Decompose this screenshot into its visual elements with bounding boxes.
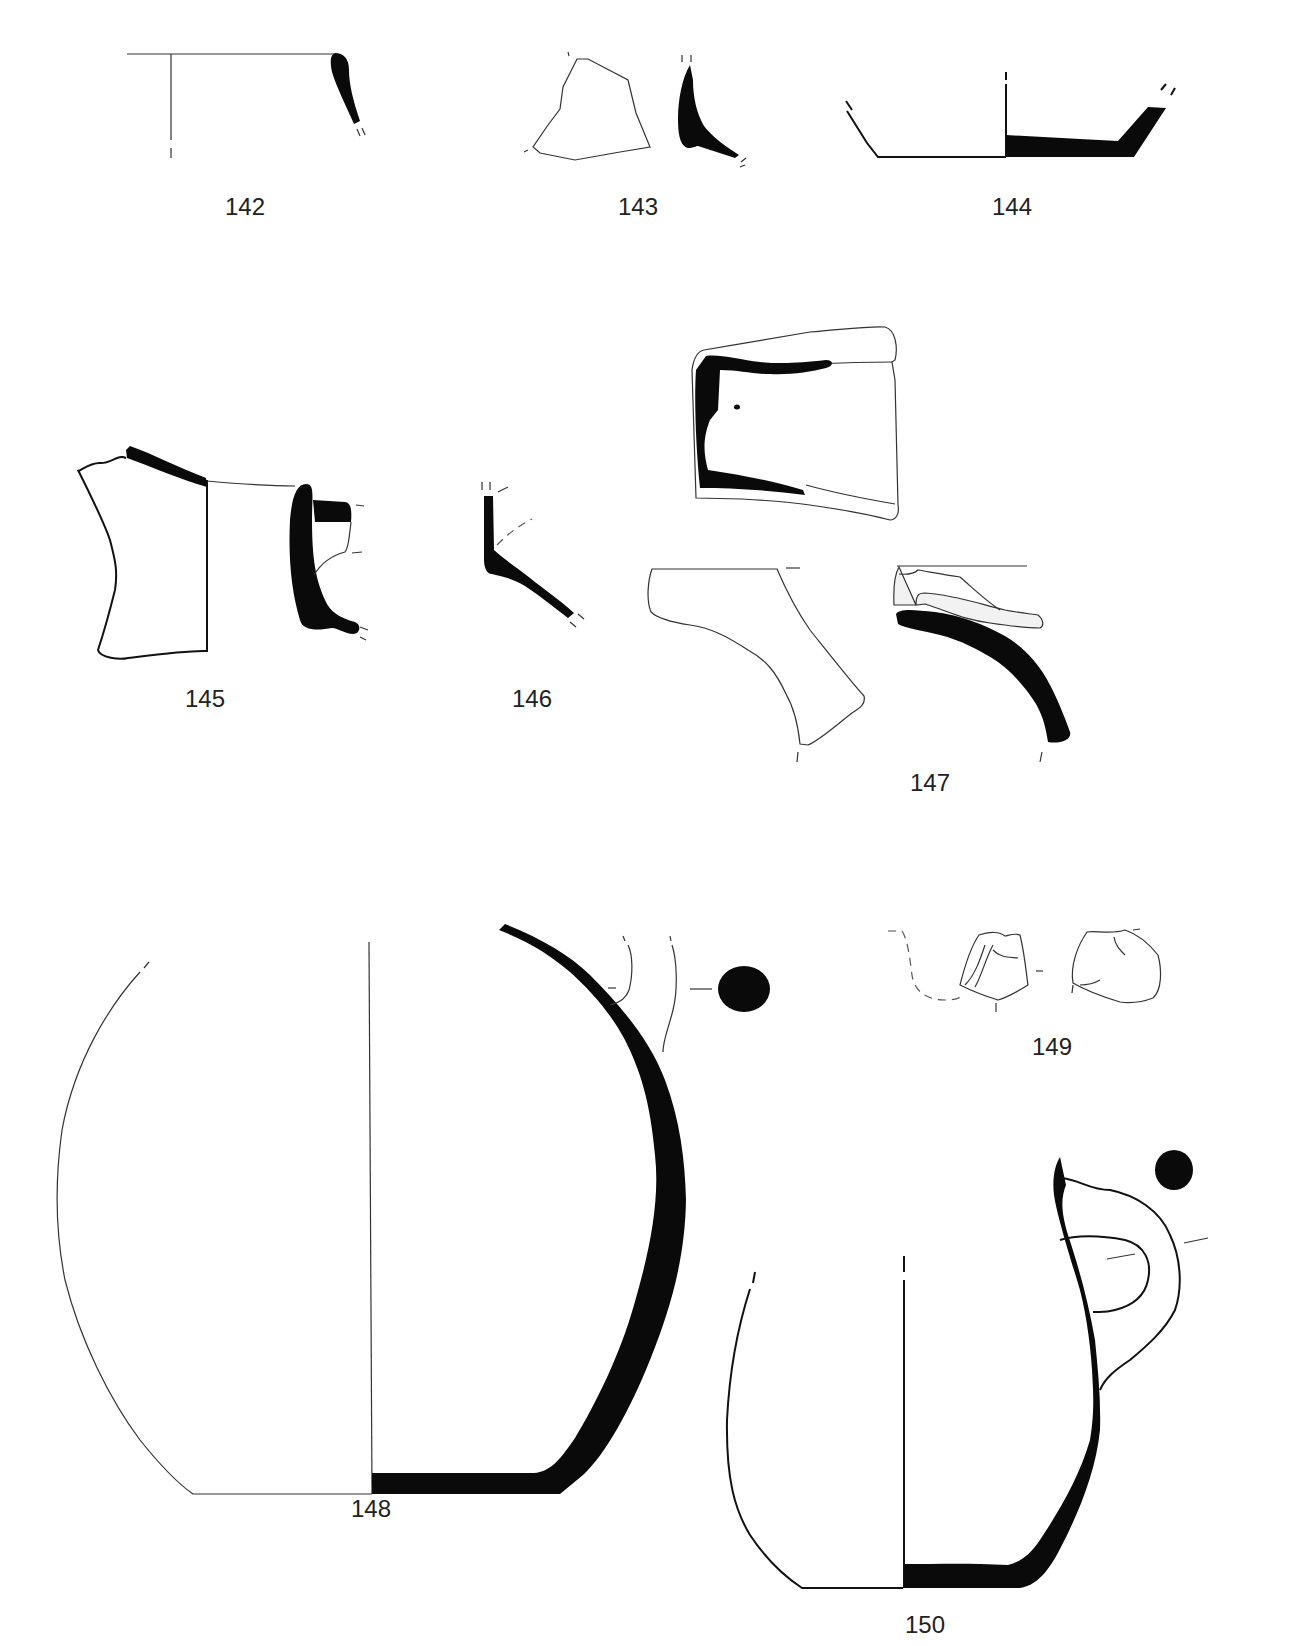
figure-145-neck-fragment (78, 446, 368, 659)
figure-149-handle-fragments (888, 929, 1161, 1012)
figure-label-143: 143 (618, 193, 658, 221)
figure-label-142: 142 (225, 193, 265, 221)
pottery-plate-drawing (0, 0, 1292, 1646)
figure-144-base-profile (846, 72, 1175, 157)
figure-label-145: 145 (185, 685, 225, 713)
figure-150-jug-with-handle (727, 1150, 1208, 1588)
figure-148-large-jug (57, 924, 770, 1494)
figure-label-148: 148 (351, 1495, 391, 1523)
figure-147-lug-fragment (692, 327, 898, 520)
figure-label-149: 149 (1032, 1033, 1072, 1061)
figure-143-sherd (524, 52, 746, 167)
figure-142-rim-profile (127, 53, 365, 158)
figure-label-150: 150 (905, 1611, 945, 1639)
figure-label-144: 144 (992, 193, 1032, 221)
figure-label-147: 147 (910, 769, 950, 797)
figure-146-shoulder-profile (482, 482, 584, 627)
figure-147-handle-fragment (648, 566, 1070, 762)
figure-label-146: 146 (512, 685, 552, 713)
